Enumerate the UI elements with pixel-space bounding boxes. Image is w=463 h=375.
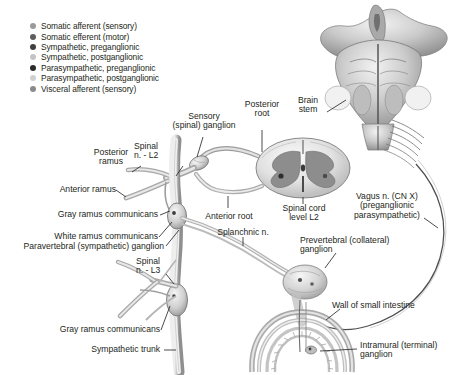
legend-item: Sympathetic, preganglionic (30, 42, 159, 52)
label-splanchnic-nerve: Splanchnic n. (208, 228, 278, 237)
label-anterior-ramus: Anterior ramus (28, 185, 116, 194)
legend-item: Sympathetic, postganglionic (30, 52, 159, 62)
label-posterior-ramus: Posterior ramus (82, 148, 140, 167)
label-spinal-cord-level: Spinal cord level L2 (276, 204, 332, 223)
posterior-root-and-sensory-ganglion (187, 148, 258, 173)
legend-color-swatch (30, 34, 36, 40)
legend-color-swatch (30, 75, 36, 81)
label-spinal-nerve-l2: Spinal n. - L2 (134, 142, 178, 161)
legend-item: Somatic efferent (motor) (30, 31, 159, 41)
label-vagus-nerve: Vagus n. (CN X) (preganglionic parasympa… (345, 192, 429, 220)
anatomy-figure: Somatic afferent (sensory) Somatic effer… (0, 0, 463, 375)
label-prevertebral-ganglion: Prevertebral (collateral) ganglion (300, 236, 400, 255)
label-intramural-ganglion: Intramural (terminal) ganglion (360, 341, 463, 360)
legend: Somatic afferent (sensory) Somatic effer… (30, 21, 159, 94)
label-spinal-nerve-l3: Spinal n. - L3 (136, 257, 178, 276)
brain-stem-illustration (321, 5, 448, 168)
label-paravertebral-ganglion: Paravertebral (sympathetic) ganglion (0, 242, 164, 251)
legend-item: Parasympathetic, postganglionic (30, 73, 159, 83)
label-gray-ramus-communicans-lower: Gray ramus communicans (14, 325, 160, 334)
legend-item-label: Visceral afferent (sensory) (41, 84, 136, 94)
legend-color-swatch (30, 23, 36, 29)
legend-item: Visceral afferent (sensory) (30, 83, 159, 93)
label-brain-stem: Brain stem (287, 96, 329, 115)
label-sympathetic-trunk: Sympathetic trunk (56, 345, 160, 354)
label-anterior-root: Anterior root (198, 212, 260, 221)
label-gray-ramus-communicans-upper: Gray ramus communicans (12, 210, 158, 219)
label-white-ramus-communicans: White ramus communicans (6, 232, 158, 241)
legend-item-label: Somatic afferent (sensory) (41, 21, 137, 31)
legend-color-swatch (30, 65, 36, 71)
label-wall-of-small-intestine: Wall of small intestine (332, 301, 456, 310)
spinal-cord-cross-section (256, 138, 350, 198)
legend-color-swatch (30, 86, 36, 92)
legend-item-label: Sympathetic, postganglionic (41, 52, 143, 62)
legend-color-swatch (30, 54, 36, 60)
label-posterior-root: Posterior root (232, 100, 292, 119)
legend-item-label: Sympathetic, preganglionic (41, 42, 139, 52)
legend-item-label: Somatic efferent (motor) (41, 32, 129, 42)
legend-color-swatch (30, 44, 36, 50)
legend-item-label: Parasympathetic, postganglionic (41, 73, 159, 83)
anterior-root (196, 174, 262, 192)
legend-item: Parasympathetic, preganglionic (30, 63, 159, 73)
legend-item: Somatic afferent (sensory) (30, 21, 159, 31)
label-sensory-ganglion: Sensory (spinal) ganglion (170, 112, 238, 131)
legend-item-label: Parasympathetic, preganglionic (41, 63, 155, 73)
